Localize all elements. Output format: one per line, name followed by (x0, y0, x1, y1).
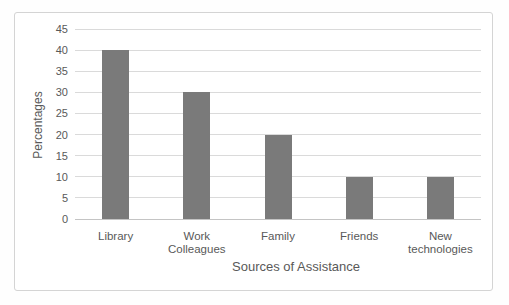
y-tick-label: 40 (30, 43, 68, 57)
x-axis-line (75, 219, 481, 220)
y-tick-label: 0 (30, 212, 68, 226)
gridline (75, 29, 481, 30)
chart-screenshot: Percentages 051015202530354045LibraryWor… (0, 0, 509, 305)
y-tick-label: 25 (30, 106, 68, 120)
bar-library (102, 50, 129, 219)
x-category-label: Friends (318, 230, 400, 243)
y-tick-label: 10 (30, 170, 68, 184)
y-tick-label: 20 (30, 128, 68, 142)
gridline (75, 50, 481, 51)
gridline (75, 92, 481, 93)
bar-new-technologies (427, 177, 454, 219)
y-tick-label: 45 (30, 22, 68, 36)
y-tick-label: 15 (30, 149, 68, 163)
x-category-label: Work Colleagues (156, 230, 238, 256)
bar-work-colleagues (183, 92, 210, 219)
x-category-label: Library (75, 230, 157, 243)
x-category-label: New technologies (399, 230, 481, 256)
y-tick-label: 35 (30, 64, 68, 78)
x-axis-title: Sources of Assistance (86, 259, 506, 274)
x-category-label: Family (237, 230, 319, 243)
bar-family (265, 135, 292, 219)
y-tick-label: 30 (30, 85, 68, 99)
gridline (75, 113, 481, 114)
gridline (75, 71, 481, 72)
y-tick-label: 5 (30, 191, 68, 205)
bar-friends (346, 177, 373, 219)
